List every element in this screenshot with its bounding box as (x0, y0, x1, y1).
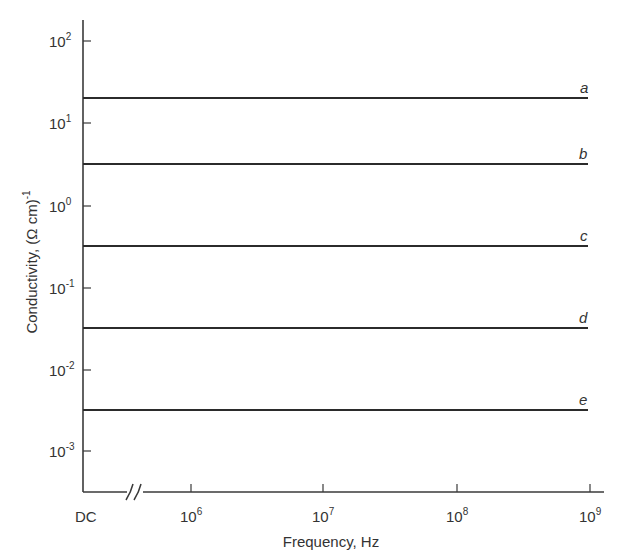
x-tick-labels: DC 106 107 108 109 (75, 506, 602, 525)
y-tick-label: 102 (49, 31, 72, 50)
x-tick-label-dc: DC (75, 508, 97, 525)
y-tick-label: 10-2 (49, 360, 75, 379)
axis-break-icon (126, 484, 143, 500)
y-axis-title: Conductivity, (Ω cm)-1 (21, 190, 40, 334)
series-label-e: e (579, 391, 587, 408)
series-label-a: a (580, 79, 588, 96)
x-tick-label: 109 (579, 506, 602, 525)
series-label-b: b (579, 145, 587, 162)
conductivity-chart: 102 101 100 10-1 10-2 10-3 DC 106 107 10… (0, 0, 626, 559)
series-lines (83, 98, 588, 410)
y-tick-label: 101 (49, 113, 72, 132)
x-tick-label: 107 (312, 506, 335, 525)
series-label-c: c (580, 227, 588, 244)
y-tick-label: 10-1 (49, 278, 75, 297)
x-tick-label: 108 (446, 506, 469, 525)
x-ticks (191, 484, 590, 492)
x-tick-label: 106 (180, 506, 203, 525)
y-tick-labels: 102 101 100 10-1 10-2 10-3 (49, 31, 75, 460)
series-labels: a b c d e (579, 79, 588, 408)
series-label-d: d (579, 309, 588, 326)
x-axis-title: Frequency, Hz (283, 533, 379, 550)
chart-svg: 102 101 100 10-1 10-2 10-3 DC 106 107 10… (0, 0, 626, 559)
y-tick-label: 10-3 (49, 441, 75, 460)
y-tick-label: 100 (49, 196, 72, 215)
